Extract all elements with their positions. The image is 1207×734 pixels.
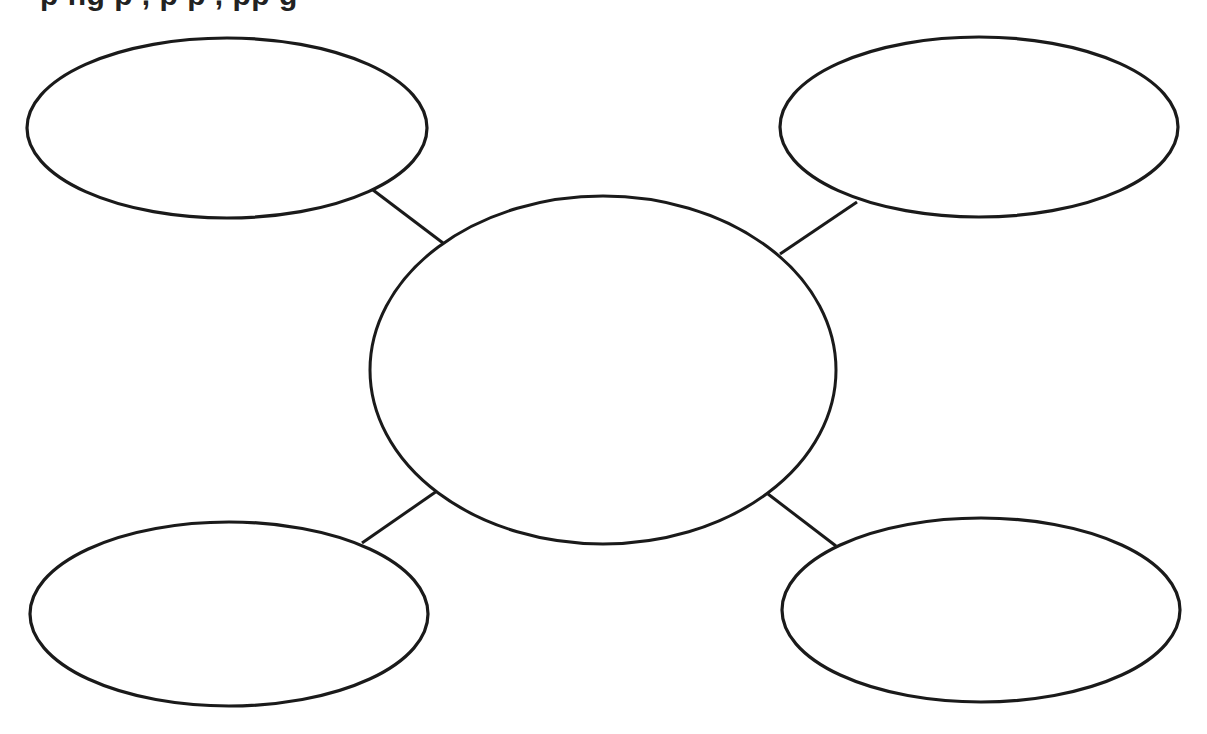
bubble-bottom-right bbox=[782, 518, 1180, 702]
bubbles bbox=[27, 37, 1180, 706]
bubble-map-diagram bbox=[0, 0, 1207, 734]
bubble-top-right bbox=[780, 37, 1178, 217]
bubble-bottom-left bbox=[30, 522, 428, 706]
connector-top-left bbox=[373, 190, 443, 243]
connector-top-right bbox=[780, 202, 857, 254]
connector-bottom-right bbox=[768, 494, 836, 546]
connector-bottom-left bbox=[362, 491, 437, 543]
bubble-top-left bbox=[27, 38, 427, 218]
center-bubble bbox=[370, 196, 836, 544]
